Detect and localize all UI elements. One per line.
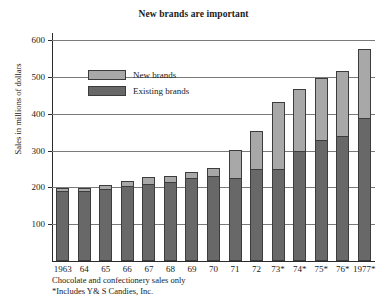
legend-item[interactable]: Existing brands <box>88 84 220 97</box>
legend-swatch-icon <box>88 86 126 96</box>
chart-title: New brands are important <box>0 9 387 19</box>
bar-segment-new <box>207 168 220 177</box>
bar-segment-existing <box>56 191 69 261</box>
y-tick-200: 200 <box>0 183 45 192</box>
bar-segment-existing <box>315 140 328 261</box>
bar-group[interactable] <box>272 33 285 261</box>
bar-segment-new <box>78 188 91 192</box>
footnote-line-1: Chocolate and confectionery sales only <box>52 275 382 286</box>
y-tick-label-100: 100 <box>5 220 45 229</box>
y-tick-600: 600 <box>0 36 45 45</box>
x-tick-label: 1977* <box>344 264 384 274</box>
bar-segment-new <box>293 89 306 152</box>
bar-segment-existing <box>121 186 134 261</box>
y-tick-label-300: 300 <box>5 147 45 156</box>
y-tick-300: 300 <box>0 147 45 156</box>
y-tick-mark-600 <box>48 40 52 41</box>
bar-segment-existing <box>207 176 220 261</box>
y-tick-400: 400 <box>0 110 45 119</box>
bar-chart: New brands are important Sales in millio… <box>0 0 387 296</box>
bar-segment-existing <box>142 184 155 261</box>
y-tick-label-600: 600 <box>5 36 45 45</box>
bar-group[interactable] <box>315 33 328 261</box>
footnotes: Chocolate and confectionery sales only *… <box>52 275 382 296</box>
y-tick-label-400: 400 <box>5 110 45 119</box>
bar-segment-existing <box>99 189 112 261</box>
bar-segment-existing <box>229 178 242 261</box>
bar-segment-new <box>250 131 263 170</box>
legend-swatch-icon <box>88 70 126 80</box>
bar-segment-existing <box>358 118 371 261</box>
bar-group[interactable] <box>56 33 69 261</box>
y-tick-mark-100 <box>48 224 52 225</box>
bar-segment-new <box>142 177 155 184</box>
bar-segment-new <box>272 102 285 170</box>
bar-group[interactable] <box>293 33 306 261</box>
y-tick-mark-200 <box>48 187 52 188</box>
y-tick-label-200: 200 <box>5 183 45 192</box>
y-tick-label-500: 500 <box>5 73 45 82</box>
bar-group[interactable] <box>336 33 349 261</box>
bar-segment-new <box>229 150 242 179</box>
bar-segment-existing <box>336 136 349 261</box>
y-tick-mark-400 <box>48 114 52 115</box>
bar-segment-new <box>99 185 112 191</box>
bar-segment-new <box>164 176 177 183</box>
footnote-line-2: *Includes Y& S Candies, Inc. <box>52 286 382 296</box>
legend-label: New brands <box>133 70 176 80</box>
legend-item[interactable]: New brands <box>88 68 220 81</box>
bar-segment-existing <box>293 151 306 261</box>
bar-segment-new <box>315 78 328 141</box>
bar-group[interactable] <box>358 33 371 261</box>
bar-group[interactable] <box>250 33 263 261</box>
bar-segment-new <box>185 172 198 179</box>
bar-group[interactable] <box>229 33 242 261</box>
bar-segment-existing <box>272 169 285 261</box>
y-tick-100: 100 <box>0 220 45 229</box>
bar-segment-new <box>358 49 371 119</box>
legend-label: Existing brands <box>133 86 189 96</box>
x-axis-line <box>52 261 375 262</box>
y-tick-500: 500 <box>0 73 45 82</box>
bar-segment-new <box>56 188 69 192</box>
y-tick-mark-500 <box>48 77 52 78</box>
bar-segment-existing <box>250 169 263 261</box>
legend: New brandsExisting brands <box>88 68 220 100</box>
y-tick-mark-300 <box>48 151 52 152</box>
bar-segment-existing <box>164 182 177 261</box>
bar-segment-existing <box>78 191 91 261</box>
bar-segment-existing <box>185 178 198 261</box>
bar-segment-new <box>336 71 349 137</box>
bar-segment-new <box>121 181 134 187</box>
